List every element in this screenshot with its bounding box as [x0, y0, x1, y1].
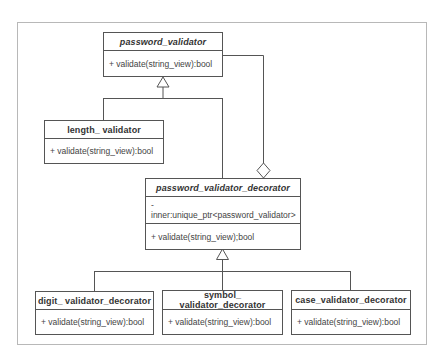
- class-attribute: - inner:unique_ptr<password_validator>: [146, 197, 300, 224]
- class-operation: + validate(string_view):bool: [292, 310, 410, 334]
- class-digit-validator-decorator: digit_ validator_decorator + validate(st…: [35, 291, 154, 335]
- class-name: symbol_ validator_decorator: [163, 291, 282, 310]
- class-symbol-validator-decorator: symbol_ validator_decorator + validate(s…: [162, 290, 283, 335]
- class-operation: + validate(string_view):bool: [36, 310, 153, 334]
- class-operation: + validate(string_view):bool: [45, 139, 163, 163]
- class-name: digit_ validator_decorator: [36, 292, 153, 310]
- class-name: password_validator_decorator: [146, 179, 300, 197]
- class-password-validator: password_validator + validate(string_vie…: [103, 32, 223, 77]
- class-password-validator-decorator: password_validator_decorator - inner:uni…: [145, 178, 301, 250]
- generalization-arrow-icon: [157, 77, 169, 87]
- class-case-validator-decorator: case_validator_decorator + validate(stri…: [291, 290, 411, 335]
- class-name: case_validator_decorator: [292, 291, 410, 310]
- generalization-arrow-icon: [217, 249, 229, 260]
- class-operation: + validate(string_view):bool: [104, 51, 222, 76]
- class-operation: + validate(string_view);bool: [146, 224, 300, 249]
- class-name: password_validator: [104, 33, 222, 51]
- aggregation-diamond-icon: [257, 163, 270, 178]
- class-operation: + validate(string_view):bool: [163, 310, 282, 334]
- class-name: length_ validator: [45, 121, 163, 139]
- class-length-validator: length_ validator + validate(string_view…: [44, 120, 164, 164]
